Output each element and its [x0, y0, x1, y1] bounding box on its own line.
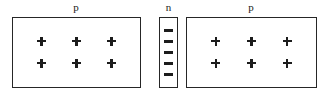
middle-n-carrier-column	[160, 18, 177, 87]
positive-charge-icon	[247, 37, 256, 46]
negative-charge-icon	[164, 73, 173, 76]
middle-n-region-box	[159, 17, 178, 88]
negative-charge-icon	[164, 51, 173, 54]
positive-charge-icon	[37, 37, 46, 46]
carrier-row	[198, 59, 305, 68]
positive-charge-icon	[107, 37, 116, 46]
left-p-region-box	[12, 17, 141, 88]
right-p-region-label: p	[227, 2, 275, 13]
middle-n-region-label: n	[148, 2, 189, 13]
positive-charge-icon	[211, 59, 220, 68]
positive-charge-icon	[72, 59, 81, 68]
negative-charge-icon	[164, 62, 173, 65]
positive-charge-icon	[247, 59, 256, 68]
carrier-row	[198, 37, 305, 46]
positive-charge-icon	[107, 59, 116, 68]
positive-charge-icon	[283, 59, 292, 68]
negative-charge-icon	[164, 29, 173, 32]
positive-charge-icon	[72, 37, 81, 46]
right-p-region-box	[186, 17, 317, 88]
left-p-region-label: p	[52, 2, 100, 13]
positive-charge-icon	[211, 37, 220, 46]
left-p-carrier-grid	[13, 18, 140, 87]
pnp-junction-diagram: p n p	[0, 0, 331, 98]
carrier-row	[24, 37, 129, 46]
right-p-carrier-grid	[187, 18, 316, 87]
negative-charge-icon	[164, 40, 173, 43]
positive-charge-icon	[283, 37, 292, 46]
positive-charge-icon	[37, 59, 46, 68]
carrier-row	[24, 59, 129, 68]
